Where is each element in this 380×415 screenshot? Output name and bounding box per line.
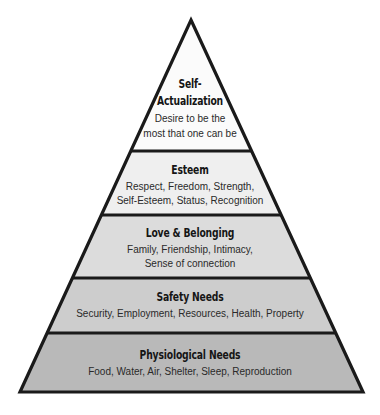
tier-description-line: Respect, Freedom, Strength, xyxy=(0,180,380,194)
tier-esteem: Esteem Respect, Freedom, Strength, Self-… xyxy=(0,161,380,208)
tier-description: Security, Employment, Resources, Health,… xyxy=(0,307,380,321)
tier-description: Food, Water, Air, Shelter, Sleep, Reprod… xyxy=(0,365,380,379)
tier-title: Self- xyxy=(34,75,346,92)
tier-description: Family, Friendship, Intimacy, Sense of c… xyxy=(0,243,380,271)
tier-title: Love & Belonging xyxy=(34,224,346,241)
tier-description-line: Self-Esteem, Status, Recognition xyxy=(0,194,380,208)
tier-description-line: Security, Employment, Resources, Health,… xyxy=(0,307,380,321)
tier-title: Actualization xyxy=(34,92,346,109)
tier-description: Desire to be the most that one can be xyxy=(0,111,380,141)
tier-title: Esteem xyxy=(34,161,346,178)
tier-description-line: Family, Friendship, Intimacy, xyxy=(0,243,380,257)
tier-description-line: Desire to be the xyxy=(0,111,380,126)
tier-love-belonging: Love & Belonging Family, Friendship, Int… xyxy=(0,224,380,271)
tier-safety-needs: Safety Needs Security, Employment, Resou… xyxy=(0,288,380,321)
tier-description: Respect, Freedom, Strength, Self-Esteem,… xyxy=(0,180,380,208)
tier-title: Physiological Needs xyxy=(34,346,346,363)
tier-physiological-needs: Physiological Needs Food, Water, Air, Sh… xyxy=(0,346,380,379)
tier-title: Safety Needs xyxy=(34,288,346,305)
tier-description-line: Sense of connection xyxy=(0,257,380,271)
tier-description-line: most that one can be xyxy=(0,126,380,141)
tier-description-line: Food, Water, Air, Shelter, Sleep, Reprod… xyxy=(0,365,380,379)
tier-self-actualization: Self- Actualization Desire to be the mos… xyxy=(0,75,380,141)
